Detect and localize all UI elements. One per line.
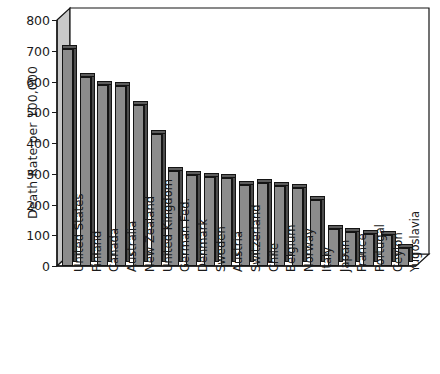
x-tick-label: Canada — [107, 228, 121, 272]
bar-top-face — [97, 81, 112, 85]
x-tick-label: Japan — [338, 240, 352, 272]
x-tick-label: Australia — [125, 221, 139, 272]
bar-top-face — [310, 196, 325, 200]
bar-top-face — [151, 130, 166, 134]
x-tick-label: Portugal — [373, 224, 387, 272]
bar-top-face — [115, 82, 130, 86]
x-tick-label: Norway — [302, 228, 316, 272]
x-tick-label: Italy — [320, 247, 334, 272]
bar-top-face — [62, 45, 77, 49]
bar-top-face — [221, 174, 236, 178]
x-tick-label: Finland — [90, 231, 104, 272]
x-tick-label: Austria — [231, 231, 245, 272]
x-tick-label: France — [355, 233, 369, 272]
x-tick-label: Switzerland — [249, 204, 263, 272]
bar-top-face — [168, 167, 183, 171]
bar-chart: Death Rate per 100,000 01002003004005006… — [0, 0, 440, 374]
bar-top-face — [186, 171, 201, 175]
x-tick-label: Yugoslavia — [408, 211, 422, 272]
x-tick-label: Sweden — [214, 226, 228, 272]
bar-top-face — [345, 228, 360, 232]
bar-top-face — [80, 73, 95, 77]
bar-top-face — [133, 101, 148, 105]
bar-top-face — [328, 225, 343, 229]
x-tick-label: Chile — [267, 243, 281, 272]
x-tick-label: United Kingdom — [161, 179, 175, 272]
x-tick-label: Ceylon — [391, 232, 405, 272]
bar-top-face — [274, 182, 289, 186]
x-tick-label: Belgium — [284, 225, 298, 273]
x-tick-label: United States — [72, 193, 86, 272]
x-tick-label: Denmark — [196, 219, 210, 272]
bar-top-face — [292, 184, 307, 188]
bars-group — [0, 0, 440, 374]
bar-top-face — [204, 173, 219, 177]
x-tick-label: New Zealand — [143, 196, 157, 272]
x-tick-label: German Fed. — [178, 198, 192, 272]
bar-top-face — [239, 181, 254, 185]
bar-top-face — [257, 179, 272, 183]
